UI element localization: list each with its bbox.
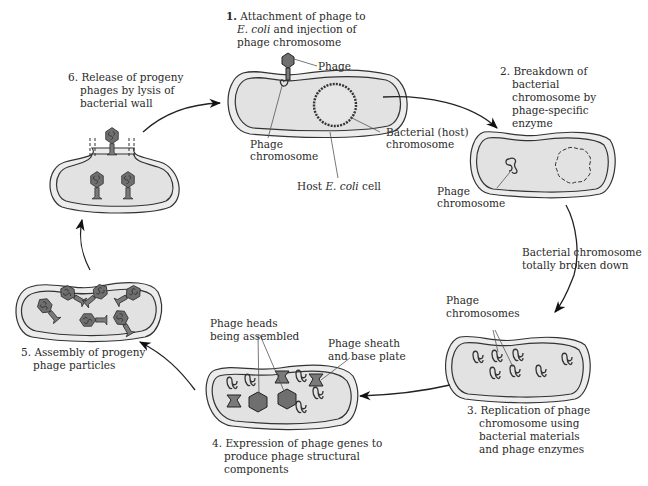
svg-text:chromosome: chromosome bbox=[386, 138, 454, 150]
label-phage-heads: Phage heads being assembled bbox=[210, 317, 300, 342]
svg-text:1. Attachment of phage to: 1. Attachment of phage to bbox=[226, 10, 366, 22]
svg-text:Phage: Phage bbox=[437, 185, 470, 197]
svg-text:chromosomes: chromosomes bbox=[446, 307, 520, 319]
step3-caption: 3. Replication of phage chromosome using… bbox=[467, 404, 590, 455]
svg-text:phage-specific: phage-specific bbox=[512, 104, 589, 116]
svg-text:Bacterial (host): Bacterial (host) bbox=[386, 126, 469, 138]
step6-caption: 6. Release of progeny phages by lysis of… bbox=[68, 71, 184, 109]
step2-caption: 2. Breakdown of bacterial chromosome by … bbox=[500, 65, 596, 129]
svg-text:Phage: Phage bbox=[250, 138, 283, 150]
svg-text:produce phage structural: produce phage structural bbox=[224, 450, 361, 462]
svg-text:chromosome by: chromosome by bbox=[512, 91, 596, 103]
arrow-3-to-4 bbox=[360, 385, 450, 396]
label-phage: Phage bbox=[318, 60, 351, 72]
svg-text:bacterial wall: bacterial wall bbox=[80, 97, 153, 109]
svg-text:6. Release of progeny: 6. Release of progeny bbox=[68, 71, 184, 83]
step5-caption: 5. Assembly of progeny phage particles bbox=[21, 346, 146, 371]
label-phage-sheath: Phage sheath and base plate bbox=[328, 337, 406, 362]
svg-text:chromosome: chromosome bbox=[437, 197, 505, 209]
svg-text:chromosome using: chromosome using bbox=[479, 417, 580, 429]
label-transition-2-3: Bacterial chromosome totally broken down bbox=[522, 246, 642, 271]
svg-text:enzyme: enzyme bbox=[512, 117, 553, 129]
step4-caption: 4. Expression of phage genes to produce … bbox=[212, 437, 382, 475]
svg-text:phages by lysis of: phages by lysis of bbox=[80, 84, 175, 96]
svg-text:3. Replication of phage: 3. Replication of phage bbox=[467, 404, 590, 416]
svg-text:phage particles: phage particles bbox=[33, 359, 115, 371]
svg-text:being assembled: being assembled bbox=[210, 330, 300, 342]
svg-text:and phage enzymes: and phage enzymes bbox=[479, 443, 584, 455]
lytic-cycle-diagram: 1. Attachment of phage to E. coli and in… bbox=[0, 0, 648, 486]
svg-text:Bacterial chromosome: Bacterial chromosome bbox=[522, 246, 642, 258]
label-phage-chromosomes-3: Phage chromosomes bbox=[446, 294, 520, 319]
step6-cell bbox=[50, 128, 179, 213]
step2-cell bbox=[470, 132, 615, 198]
svg-text:2. Breakdown of: 2. Breakdown of bbox=[500, 65, 588, 77]
svg-text:chromosome: chromosome bbox=[250, 150, 318, 162]
svg-text:4. Expression of phage genes t: 4. Expression of phage genes to bbox=[212, 437, 382, 449]
svg-text:Phage heads: Phage heads bbox=[210, 317, 278, 329]
step3-cell bbox=[446, 330, 591, 403]
svg-text:Phage sheath: Phage sheath bbox=[328, 337, 400, 349]
svg-text:bacterial materials: bacterial materials bbox=[479, 430, 580, 442]
label-phage-chromosome-1: Phage chromosome bbox=[250, 138, 318, 162]
arrow-4-to-5 bbox=[140, 342, 195, 390]
label-host-cell: Host E. coli cell bbox=[297, 180, 381, 192]
svg-text:Phage: Phage bbox=[446, 294, 479, 306]
svg-text:E. coli and injection of: E. coli and injection of bbox=[236, 23, 357, 35]
arrow-6-to-1 bbox=[143, 103, 220, 132]
step5-cell bbox=[16, 282, 162, 342]
svg-text:5. Assembly of progeny: 5. Assembly of progeny bbox=[21, 346, 146, 358]
svg-text:bacterial: bacterial bbox=[512, 78, 560, 90]
svg-text:components: components bbox=[224, 463, 289, 475]
svg-text:and base plate: and base plate bbox=[328, 350, 406, 362]
arrow-5-to-6 bbox=[80, 220, 90, 270]
step1-caption: 1. Attachment of phage to E. coli and in… bbox=[226, 10, 366, 48]
label-bacterial-host-chromosome: Bacterial (host) chromosome bbox=[386, 126, 469, 150]
svg-text:phage chromosome: phage chromosome bbox=[237, 36, 341, 48]
